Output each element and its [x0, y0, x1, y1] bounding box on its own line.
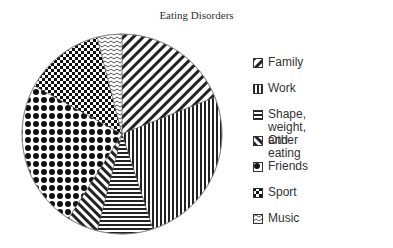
legend-label: Sport — [268, 186, 297, 199]
legend-swatch-icon — [253, 58, 263, 68]
legend-swatch-icon — [253, 162, 263, 172]
pie-chart — [0, 0, 393, 248]
legend-swatch-icon — [253, 188, 263, 198]
pie-slices — [22, 34, 222, 234]
legend-label: Other — [268, 134, 298, 147]
legend-swatch-icon — [253, 214, 263, 224]
legend-item: Friends — [253, 160, 308, 173]
legend-item: Sport — [253, 186, 297, 199]
legend-label: Friends — [268, 160, 308, 173]
legend-label: Family — [268, 56, 303, 69]
legend-swatch-icon — [253, 110, 263, 120]
legend-item: Work — [253, 82, 296, 95]
legend-label: Music — [268, 212, 299, 225]
legend-item: Other — [253, 134, 298, 147]
legend-swatch-icon — [253, 84, 263, 94]
legend-item: Music — [253, 212, 299, 225]
legend-label: Work — [268, 82, 296, 95]
legend-item: Family — [253, 56, 303, 69]
legend-swatch-icon — [253, 136, 263, 146]
